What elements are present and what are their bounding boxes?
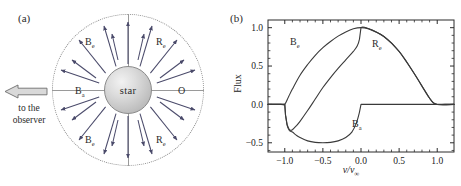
region-label-o: O bbox=[178, 85, 185, 96]
curve-subscript: e bbox=[297, 42, 300, 49]
y-tick-label: 1.0 bbox=[251, 23, 263, 33]
x-tick-label: −1.0 bbox=[276, 156, 293, 166]
region-letter: R bbox=[156, 36, 163, 47]
y-axis-label: Flux bbox=[232, 61, 243, 107]
region-label-ba: Ba bbox=[75, 85, 85, 98]
region-label-re-upper: Re bbox=[156, 36, 166, 49]
region-subscript: e bbox=[163, 140, 166, 147]
x-tick-label: 1.0 bbox=[431, 156, 443, 166]
region-subscript: e bbox=[92, 42, 95, 49]
curve-subscript: a bbox=[359, 124, 362, 131]
region-label-be-upper: Be bbox=[85, 36, 95, 49]
curve-label-re: Re bbox=[372, 38, 382, 51]
region-subscript: a bbox=[82, 91, 85, 98]
region-letter: B bbox=[85, 36, 92, 47]
region-label-re-lower: Re bbox=[156, 134, 166, 147]
figure-root: (a) bbox=[0, 0, 461, 186]
x-axis-label-text: v/v bbox=[343, 164, 355, 175]
region-label-be-lower: Be bbox=[85, 134, 95, 147]
y-tick-label: 0.5 bbox=[251, 61, 263, 71]
observer-caption-line1: to the bbox=[0, 102, 58, 114]
curve-letter: B bbox=[290, 36, 297, 47]
curve-subscript: e bbox=[379, 44, 382, 51]
observer-direction-arrow bbox=[4, 83, 48, 100]
curve-letter: B bbox=[352, 118, 359, 129]
x-tick-label: 0.5 bbox=[393, 156, 405, 166]
curve-letter: R bbox=[372, 38, 379, 49]
flux-profile-plot: −1.0−0.50.00.51.0−0.50.00.51.0 bbox=[228, 0, 461, 186]
y-tick-label: 0.0 bbox=[251, 100, 263, 110]
panel-a-wind-geometry: (a) bbox=[0, 0, 228, 186]
panel-b-line-profile: (b) −1.0−0.50.00.51.0−0.50.00.51.0 Flux … bbox=[228, 0, 461, 186]
region-subscript: e bbox=[163, 42, 166, 49]
x-axis-label: v/v∞ bbox=[316, 164, 386, 178]
observer-caption-line2: observer bbox=[0, 114, 58, 126]
region-letter: B bbox=[75, 85, 82, 96]
region-letter: O bbox=[178, 85, 185, 96]
curve-label-be: Be bbox=[290, 36, 300, 49]
star-label: star bbox=[120, 85, 136, 96]
curve-label-ba: Ba bbox=[352, 118, 362, 131]
star-disk: star bbox=[104, 66, 152, 114]
observer-caption: to the observer bbox=[0, 102, 58, 126]
region-subscript: e bbox=[92, 140, 95, 147]
region-letter: B bbox=[85, 134, 92, 145]
y-tick-label: −0.5 bbox=[246, 138, 263, 148]
x-axis-label-subscript: ∞ bbox=[354, 170, 359, 178]
region-letter: R bbox=[156, 134, 163, 145]
